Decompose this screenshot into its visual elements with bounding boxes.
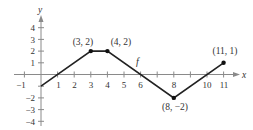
x-tick-label: 2 bbox=[72, 80, 77, 90]
y-axis: y 4 3 2 1 −2 −3 −4 bbox=[25, 5, 44, 127]
y-tick-label: 1 bbox=[31, 58, 36, 68]
function-graph: x −1 1 2 3 4 5 6 8 10 11 bbox=[0, 0, 253, 130]
x-tick-label: −1 bbox=[16, 80, 26, 90]
x-axis-arrow-icon bbox=[233, 72, 240, 77]
point-marker bbox=[172, 96, 176, 100]
curve-label-f: f bbox=[136, 56, 140, 67]
point-label-3-2: (3, 2) bbox=[73, 37, 94, 48]
point-marker bbox=[89, 49, 93, 53]
x-tick-label: 10 bbox=[203, 80, 213, 90]
x-tick-label: 5 bbox=[122, 80, 127, 90]
point-label-4-2: (4, 2) bbox=[111, 37, 132, 48]
y-tick-label: −4 bbox=[25, 117, 35, 127]
point-label-11-1: (11, 1) bbox=[213, 46, 238, 57]
y-tick-label: 2 bbox=[31, 46, 36, 56]
y-axis-label: y bbox=[37, 5, 43, 15]
x-tick-label: 1 bbox=[56, 80, 61, 90]
x-tick-label: 11 bbox=[220, 80, 229, 90]
x-tick-label: 3 bbox=[89, 80, 94, 90]
y-tick-label: 3 bbox=[31, 35, 36, 45]
x-tick-label: 6 bbox=[138, 80, 143, 90]
y-axis-arrow-icon bbox=[39, 15, 44, 22]
x-tick-label: 8 bbox=[172, 80, 177, 90]
y-tick-label: −3 bbox=[25, 105, 35, 115]
x-axis-label: x bbox=[241, 70, 247, 80]
x-tick-label: 4 bbox=[105, 80, 110, 90]
point-label-8-neg2: (8, −2) bbox=[162, 102, 188, 113]
point-marker bbox=[105, 49, 109, 53]
y-tick-label: 4 bbox=[31, 23, 36, 33]
point-marker bbox=[221, 61, 225, 65]
y-tick-label: −2 bbox=[25, 93, 35, 103]
